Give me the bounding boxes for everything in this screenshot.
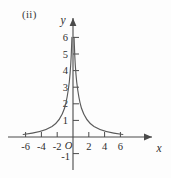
y-tick-label: 6 <box>63 32 68 43</box>
y-tick-label: 1 <box>63 115 68 126</box>
x-axis-label: x <box>155 142 162 154</box>
y-axis-label: y <box>59 14 66 27</box>
x-tick-label: -4 <box>37 141 46 152</box>
x-tick-label: 4 <box>102 141 108 152</box>
x-axis-arrow-icon <box>144 134 152 141</box>
x-tick-label: -6 <box>21 141 30 152</box>
y-tick-label-negative: -1 <box>61 151 70 162</box>
figure-container: (ii) -6 -4 -2 2 <box>0 0 171 178</box>
graph-plot: -6 -4 -2 2 4 6 1 2 3 4 5 6 -1 O x y <box>0 0 171 178</box>
origin-label: O <box>65 140 73 151</box>
y-tick-label: 5 <box>63 49 68 60</box>
x-tick-label: 2 <box>86 141 91 152</box>
x-tick-label: -2 <box>53 141 62 152</box>
y-axis-arrow-icon <box>70 18 77 26</box>
x-tick-label: 6 <box>118 141 123 152</box>
y-tick-label: 4 <box>63 65 69 76</box>
curve-right-branch <box>74 37 123 134</box>
y-tick-label: 3 <box>63 82 68 93</box>
